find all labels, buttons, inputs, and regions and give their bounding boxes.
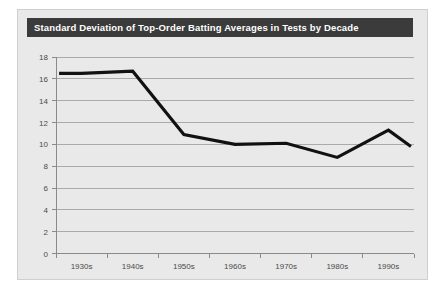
y-axis-ticks-group	[52, 57, 56, 254]
x-axis-tick-label: 1940s	[122, 262, 144, 271]
y-axis-tick-label: 6	[44, 184, 49, 193]
plot-area: 024681012141618 1930s1940s1950s1960s1970…	[18, 10, 429, 281]
y-axis-tick-label: 8	[44, 162, 49, 171]
x-axis-tick-label: 1930s	[71, 262, 93, 271]
x-axis-tick-label: 1980s	[326, 262, 348, 271]
x-axis-tick-label: 1990s	[378, 262, 400, 271]
y-axis-labels-group: 024681012141618	[39, 53, 48, 259]
y-axis-tick-label: 4	[44, 206, 49, 215]
x-axis-tick-label: 1970s	[275, 262, 297, 271]
line-chart-svg: 024681012141618 1930s1940s1950s1960s1970…	[18, 10, 429, 281]
y-axis-tick-label: 10	[39, 140, 48, 149]
y-axis-tick-label: 14	[39, 97, 48, 106]
x-axis-tick-label: 1950s	[173, 262, 195, 271]
chart-panel: Standard Deviation of Top-Order Batting …	[17, 9, 428, 280]
y-axis-tick-label: 2	[44, 228, 49, 237]
y-axis-tick-label: 16	[39, 75, 48, 84]
y-axis-tick-label: 12	[39, 119, 48, 128]
x-axis-ticks-group	[56, 254, 414, 258]
y-axis-tick-label: 0	[44, 250, 49, 259]
y-axis-tick-label: 18	[39, 53, 48, 62]
gridlines-group	[56, 57, 414, 254]
x-axis-tick-label: 1960s	[224, 262, 246, 271]
x-axis-labels-group: 1930s1940s1950s1960s1970s1980s1990s	[71, 262, 400, 271]
